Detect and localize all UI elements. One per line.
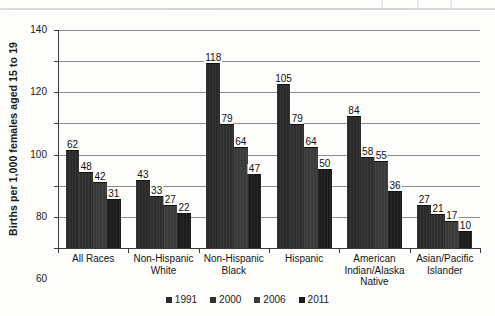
x-axis-category-label-line: Hispanic — [269, 253, 339, 265]
bar-value-label: 64 — [234, 137, 247, 147]
x-axis-category-label: Hispanic — [269, 253, 339, 265]
bar-value-label: 22 — [178, 203, 191, 213]
scan-artifact — [313, 0, 493, 8]
bar-value-label: 27 — [164, 195, 177, 205]
y-axis-tick: 40 — [54, 186, 59, 187]
bar-slot: 10 — [459, 30, 473, 248]
bar-chart-figure: Births per 1,000 females aged 15 to 19 0… — [0, 0, 495, 316]
bar-slot: 84 — [347, 30, 361, 248]
bar-group-bars: 84585536 — [347, 30, 402, 248]
legend-swatch-icon — [166, 297, 172, 303]
bar-value-label: 84 — [347, 106, 360, 116]
bar-slot: 50 — [318, 30, 332, 248]
x-axis-category-label-line: Native — [339, 276, 409, 288]
legend-item-label: 1991 — [175, 294, 197, 305]
bar[interactable] — [150, 196, 164, 248]
legend-item[interactable]: 1991 — [166, 294, 197, 305]
bar-group: 84585536 — [347, 30, 402, 248]
bar[interactable] — [445, 221, 459, 248]
bar-value-label: 50 — [318, 159, 331, 169]
bar[interactable] — [93, 182, 107, 248]
bar-group-bars: 118796447 — [206, 30, 261, 248]
bar[interactable] — [375, 161, 389, 248]
legend-item[interactable]: 2000 — [210, 294, 241, 305]
bar[interactable] — [234, 147, 248, 248]
bar[interactable] — [206, 63, 220, 248]
bar[interactable] — [177, 213, 191, 248]
bar-value-label: 10 — [459, 221, 472, 231]
y-axis-tick-label: 80 — [36, 212, 47, 222]
legend-item[interactable]: 2011 — [299, 294, 330, 305]
bar-value-label: 62 — [66, 140, 79, 150]
bar-slot: 21 — [431, 30, 445, 248]
bar-group-bars: 43332722 — [136, 30, 191, 248]
bar-slot: 42 — [93, 30, 107, 248]
bar[interactable] — [79, 172, 93, 248]
bar[interactable] — [347, 116, 361, 248]
legend-swatch-icon — [299, 297, 305, 303]
bar-group: 118796447 — [206, 30, 261, 248]
x-axis-category-label-line: Indian/Alaska — [339, 265, 409, 277]
x-axis-category-label: Non-HispanicBlack — [199, 253, 269, 276]
bar[interactable] — [136, 180, 150, 248]
bar[interactable] — [220, 124, 234, 248]
y-axis-title: Births per 1,000 females aged 15 to 19 — [6, 30, 20, 248]
bar[interactable] — [431, 214, 445, 248]
y-axis-title-text: Births per 1,000 females aged 15 to 19 — [7, 42, 19, 236]
bar-slot: 47 — [248, 30, 262, 248]
bar-slot: 36 — [388, 30, 402, 248]
bar[interactable] — [164, 205, 178, 248]
bar-slot: 22 — [177, 30, 191, 248]
page-top-rule — [0, 8, 495, 10]
plot-area: 0204060801001201406248423143332722118796… — [58, 30, 480, 248]
bar[interactable] — [277, 84, 291, 249]
bar-value-label: 79 — [291, 114, 304, 124]
legend-swatch-icon — [254, 297, 260, 303]
bar-value-label: 36 — [389, 181, 402, 191]
bar-slot: 62 — [66, 30, 80, 248]
bar-value-label: 27 — [418, 195, 431, 205]
bar-slot: 33 — [150, 30, 164, 248]
bar-slot: 58 — [361, 30, 375, 248]
y-axis-tick: 100 — [54, 92, 59, 93]
x-axis-category-label-line: White — [128, 265, 198, 277]
bar-value-label: 64 — [304, 137, 317, 147]
bar-value-label: 17 — [445, 211, 458, 221]
bar[interactable] — [248, 174, 262, 248]
bar-slot: 105 — [277, 30, 291, 248]
bar[interactable] — [66, 150, 80, 248]
bar-group: 27211710 — [417, 30, 472, 248]
bar[interactable] — [417, 205, 431, 248]
bar[interactable] — [459, 231, 473, 248]
bar[interactable] — [290, 124, 304, 248]
bar-slot: 55 — [375, 30, 389, 248]
bar[interactable] — [388, 191, 402, 248]
bar-slot: 17 — [445, 30, 459, 248]
bar-group: 43332722 — [136, 30, 191, 248]
bar-slot: 64 — [234, 30, 248, 248]
y-axis-tick: 80 — [54, 123, 59, 124]
bar-group-bars: 27211710 — [417, 30, 472, 248]
bar[interactable] — [304, 147, 318, 248]
bar[interactable] — [361, 157, 375, 248]
bar[interactable] — [107, 199, 121, 248]
bar-value-label: 43 — [136, 170, 149, 180]
y-axis-tick-label: 120 — [30, 87, 47, 97]
bar-value-label: 47 — [248, 164, 261, 174]
legend-item[interactable]: 2006 — [254, 294, 285, 305]
bar-slot: 27 — [417, 30, 431, 248]
bar-slot: 64 — [304, 30, 318, 248]
y-axis-tick-label: 100 — [30, 150, 47, 160]
legend-item-label: 2011 — [308, 294, 330, 305]
bar-value-label: 33 — [150, 186, 163, 196]
x-axis-category-label-line: Islander — [410, 265, 480, 277]
x-axis-category-label-line: American — [339, 253, 409, 265]
bar-slot: 43 — [136, 30, 150, 248]
x-axis-category-label-line: Asian/Pacific — [410, 253, 480, 265]
bar-value-label: 79 — [220, 114, 233, 124]
y-axis-tick: 120 — [54, 61, 59, 62]
bar[interactable] — [318, 169, 332, 248]
x-axis-category-label: Non-HispanicWhite — [128, 253, 198, 276]
x-axis-category-label: Asian/PacificIslander — [410, 253, 480, 276]
bar-slot: 31 — [107, 30, 121, 248]
